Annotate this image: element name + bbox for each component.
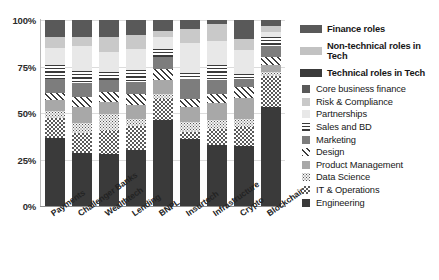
bar-segment[interactable] <box>45 37 65 48</box>
bar-segment[interactable] <box>234 39 254 50</box>
legend-item-row[interactable]: Design <box>298 146 439 159</box>
bar-segment[interactable] <box>126 126 146 150</box>
bar-segment[interactable] <box>99 52 119 71</box>
bar-segment[interactable] <box>234 50 254 74</box>
legend-item-row[interactable]: Sales and BD <box>298 121 439 134</box>
bar-segment[interactable] <box>99 72 119 80</box>
legend-item-row[interactable]: Data Science <box>298 171 439 184</box>
bar-segment[interactable] <box>207 94 227 103</box>
bar-segment[interactable] <box>153 37 173 49</box>
bar-segment[interactable] <box>72 71 92 83</box>
bar-segment[interactable] <box>153 69 173 80</box>
legend-group-row[interactable]: Finance roles <box>300 24 439 34</box>
bar-segment[interactable] <box>234 20 254 39</box>
legend-group-label: Technical roles in Tech <box>327 68 425 78</box>
bar-segment[interactable] <box>261 46 281 57</box>
stacked-bar[interactable] <box>261 20 281 206</box>
bar-segment[interactable] <box>126 70 146 82</box>
bar-segment[interactable] <box>234 79 254 87</box>
stacked-bar[interactable] <box>180 20 200 206</box>
legend-item-row[interactable]: Engineering <box>298 196 439 209</box>
bar-segment[interactable] <box>180 20 200 29</box>
bar-segment[interactable] <box>72 97 92 106</box>
bar-segment[interactable] <box>99 102 119 114</box>
bar-segment[interactable] <box>126 82 146 94</box>
bar-segment[interactable] <box>180 99 200 107</box>
bar-segment[interactable] <box>207 120 227 129</box>
stacked-bar[interactable] <box>153 20 173 206</box>
bar-segment[interactable] <box>126 94 146 104</box>
bar-segment[interactable] <box>72 83 92 97</box>
bar-segment[interactable] <box>126 49 146 70</box>
legend-item-row[interactable]: Partnerships <box>298 108 439 121</box>
bar-segment[interactable] <box>180 139 200 206</box>
bar-segment[interactable] <box>99 20 119 37</box>
bar-segment[interactable] <box>153 20 173 31</box>
bar-segment[interactable] <box>126 20 146 35</box>
bar-segment[interactable] <box>234 87 254 98</box>
bar-segment[interactable] <box>207 103 227 120</box>
bar-segment[interactable] <box>45 118 65 138</box>
bar-segment[interactable] <box>99 114 119 131</box>
bar-segment[interactable] <box>45 79 65 93</box>
bar-segment[interactable] <box>45 48 65 65</box>
bar-segment[interactable] <box>45 20 65 37</box>
stacked-bar[interactable] <box>207 20 227 206</box>
bar-segment[interactable] <box>207 80 227 94</box>
bar-segment[interactable] <box>261 65 281 72</box>
stacked-bar[interactable] <box>99 20 119 206</box>
bar-segment[interactable] <box>234 119 254 127</box>
bar-segment[interactable] <box>207 41 227 65</box>
stacked-bar[interactable] <box>234 20 254 206</box>
bar-segment[interactable] <box>234 127 254 146</box>
bar-segment[interactable] <box>180 107 200 122</box>
bar-segment[interactable] <box>180 79 200 99</box>
bar-segment[interactable] <box>153 80 173 93</box>
bar-segment[interactable] <box>99 37 119 53</box>
solid-square-swatch <box>302 136 310 144</box>
legend-group-row[interactable]: Non-technical roles in Tech <box>300 41 439 61</box>
bar-segment[interactable] <box>234 98 254 118</box>
bar-segment[interactable] <box>72 46 92 71</box>
bar-segment[interactable] <box>207 129 227 145</box>
stacked-bar[interactable] <box>72 20 92 206</box>
bar-segment[interactable] <box>45 138 65 206</box>
bar-segment[interactable] <box>261 57 281 64</box>
legend-item-row[interactable]: Risk & Compliance <box>298 96 439 109</box>
bar-segment[interactable] <box>45 100 65 111</box>
legend-item-row[interactable]: IT & Operations <box>298 184 439 197</box>
bar-segment[interactable] <box>153 99 173 120</box>
legend-item-row[interactable]: Product Management <box>298 159 439 172</box>
bar-segment[interactable] <box>72 20 92 37</box>
bar-segment[interactable] <box>153 57 173 69</box>
bar-segment[interactable] <box>207 24 227 41</box>
dotted-swatch <box>302 173 310 181</box>
bar-segment[interactable] <box>180 29 200 43</box>
bar-segment[interactable] <box>126 119 146 126</box>
solid-square-swatch <box>302 98 310 106</box>
bar-segment[interactable] <box>99 80 119 92</box>
bar-segment[interactable] <box>261 76 281 108</box>
bar-segment[interactable] <box>99 131 119 154</box>
bar-segment[interactable] <box>45 65 65 79</box>
bar-segment[interactable] <box>72 37 92 46</box>
bar-segment[interactable] <box>126 35 146 49</box>
bar-segment[interactable] <box>180 122 200 131</box>
legend-item-row[interactable]: Core business finance <box>298 83 439 96</box>
bar-segment[interactable] <box>207 65 227 80</box>
legend-item-row[interactable]: Marketing <box>298 133 439 146</box>
legend-group-row[interactable]: Technical roles in Tech <box>300 68 439 78</box>
bar-segment[interactable] <box>180 43 200 73</box>
bar-segment[interactable] <box>99 92 119 102</box>
stacked-bar[interactable] <box>45 20 65 206</box>
bar-segment[interactable] <box>72 107 92 124</box>
bar-segment[interactable] <box>72 133 92 153</box>
diagonal-hatch-swatch <box>302 148 310 156</box>
bar-segment[interactable] <box>180 132 200 139</box>
bar-segment[interactable] <box>72 123 92 133</box>
bar-segment[interactable] <box>153 49 173 57</box>
bar-segment[interactable] <box>45 93 65 100</box>
bar-segment[interactable] <box>126 105 146 119</box>
bar-segment[interactable] <box>261 107 281 206</box>
bar-segment[interactable] <box>261 37 281 46</box>
